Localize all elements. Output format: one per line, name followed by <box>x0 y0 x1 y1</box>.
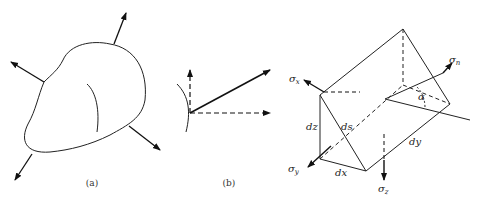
label-dz: dz <box>306 121 318 132</box>
caption-b: (b) <box>223 178 236 188</box>
stress-diagram: (a) (b) σx σn σy σz dz ds dx dy α <box>0 0 477 202</box>
panel-c <box>320 29 470 171</box>
sigma-x-arrow <box>304 80 324 92</box>
force-arrow-left <box>11 62 44 82</box>
label-sigma-z: σz <box>378 183 389 196</box>
caption-a: (a) <box>86 178 98 188</box>
inner-curve <box>87 84 98 132</box>
label-sigma-y: σy <box>288 163 300 176</box>
force-arrow-right <box>129 126 160 150</box>
force-arrow-top <box>114 13 126 44</box>
label-ds: ds <box>341 121 353 132</box>
panel-a: (a) <box>11 13 160 188</box>
body-outline <box>24 43 145 153</box>
label-alpha: α <box>418 91 425 102</box>
label-dx: dx <box>335 167 347 178</box>
label-sigma-x: σx <box>289 73 300 86</box>
panel-b: (b) <box>177 70 270 188</box>
force-arrow-bottom <box>15 154 32 180</box>
label-dy: dy <box>409 136 421 147</box>
resultant-arrow <box>190 70 270 113</box>
surface-curve <box>177 84 189 132</box>
